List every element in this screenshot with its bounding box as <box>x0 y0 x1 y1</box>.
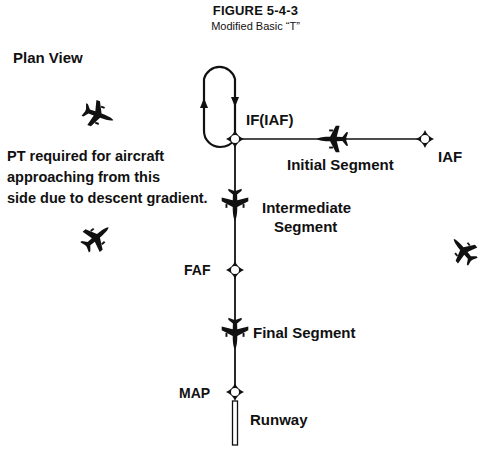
runway-label: Runway <box>250 411 308 428</box>
airplane-lower-left-icon <box>76 217 117 258</box>
fix-iaf-icon <box>416 130 434 148</box>
airplane-upper-left-icon <box>79 97 118 133</box>
plan-view-label: Plan View <box>13 49 83 66</box>
iaf-label: IAF <box>438 148 462 165</box>
if-iaf-label: IF(IAF) <box>246 111 293 128</box>
runway-icon <box>233 401 238 445</box>
intermediate-segment-label-line2: Segment <box>274 218 337 235</box>
intermediate-segment-label-line1: Intermediate <box>262 199 351 216</box>
procedure-turn-note: PT required for aircraft approaching fro… <box>7 146 208 209</box>
figure-title: FIGURE 5-4-3 <box>0 3 481 18</box>
fix-faf-icon <box>226 261 244 279</box>
faf-label: FAF <box>184 262 210 278</box>
airplane-right-icon <box>444 231 481 270</box>
initial-segment-label: Initial Segment <box>287 156 394 173</box>
figure-subtitle: Modified Basic “T” <box>0 20 481 32</box>
airplane-final-icon <box>222 318 249 349</box>
map-label: MAP <box>179 385 210 401</box>
airplane-initial-icon <box>317 126 348 153</box>
approach-diagram <box>0 0 481 452</box>
final-segment-label: Final Segment <box>253 324 356 341</box>
fix-map-icon <box>226 383 244 401</box>
airplane-intermediate-icon <box>222 189 249 220</box>
